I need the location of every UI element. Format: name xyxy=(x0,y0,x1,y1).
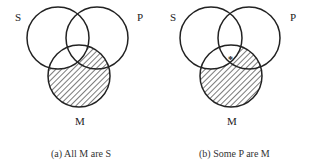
shaded-region-m-not-s xyxy=(155,0,310,168)
asterisk-marker: * xyxy=(228,54,233,65)
venn-panel-a: S P M (a) All M are S xyxy=(0,0,155,168)
label-m: M xyxy=(75,116,85,127)
label-s: S xyxy=(170,12,176,23)
caption-a: (a) All M are S xyxy=(51,149,111,159)
label-p: P xyxy=(137,12,143,23)
venn-diagram-b xyxy=(155,0,310,168)
venn-panel-b: S P M * (b) Some P are M xyxy=(155,0,310,168)
label-m: M xyxy=(227,116,237,127)
shaded-region-m-not-s xyxy=(0,0,155,168)
caption-b: (b) Some P are M xyxy=(199,149,270,159)
venn-diagram-a xyxy=(0,0,155,168)
label-s: S xyxy=(15,12,21,23)
label-p: P xyxy=(290,12,296,23)
